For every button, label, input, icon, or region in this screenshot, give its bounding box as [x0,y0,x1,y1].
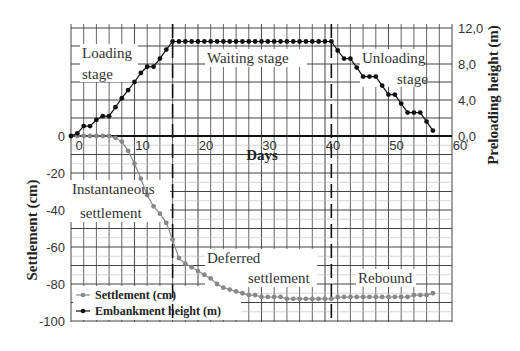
data-point [310,39,315,44]
data-point [215,39,220,44]
data-point [202,272,207,277]
data-point [285,39,290,44]
data-point [138,71,143,76]
data-point [329,39,334,44]
data-point [132,80,137,85]
y-left-tick-label: 0 [58,129,65,144]
data-point [348,295,353,300]
data-point [107,134,112,139]
data-point [380,83,385,88]
data-point [335,48,340,53]
data-point [361,74,366,79]
legend-settlement-marker [81,293,86,298]
data-point [183,39,188,44]
data-point [399,295,404,300]
data-point [323,39,328,44]
data-point [158,56,163,61]
data-point [221,39,226,44]
data-point [367,74,372,79]
data-point [431,128,436,133]
data-point [265,39,270,44]
data-point [431,291,436,296]
data-point [272,39,277,44]
data-point [227,287,232,292]
annotation-loading-2: stage [82,66,113,82]
data-point [158,211,163,216]
legend-settlement-label: Settlement (cm) [95,288,176,302]
data-point [94,117,99,122]
data-point [342,295,347,300]
data-point [221,285,226,290]
legend-embankment-label: Embankment height (m) [95,304,221,318]
data-point [278,295,283,300]
y-left-tick-label: -100 [39,314,65,329]
annotation-instant-1: Instantaneous [72,181,155,197]
y-left-tick-label: -80 [46,277,65,292]
data-point [367,295,372,300]
data-point [88,124,93,129]
data-point [304,39,309,44]
data-point [234,289,239,294]
annotation-waiting: Waiting stage [207,50,289,66]
annotation-deferred-2: settlement [248,270,310,286]
data-point [113,135,118,140]
data-point [170,237,175,242]
data-point [119,96,124,101]
data-point [81,134,86,139]
data-point [126,148,131,153]
data-point [272,295,277,300]
data-point [297,39,302,44]
annotation-loading-1: Loading [82,45,132,61]
data-point [253,39,258,44]
data-point [265,295,270,300]
data-point [196,269,201,274]
legend-embankment-marker [81,309,86,314]
data-point [354,295,359,300]
data-point [246,39,251,44]
data-point [424,293,429,298]
data-point [418,110,423,115]
x-tick-label: 20 [199,138,213,153]
y-right-axis-label: Preloading height (m) [485,25,502,165]
data-point [253,293,258,298]
y-left-tick-label: -20 [46,166,65,181]
data-point [405,110,410,115]
data-point [373,295,378,300]
data-point [113,105,118,110]
data-point [316,39,321,44]
data-point [348,56,353,61]
data-point [196,39,201,44]
data-point [189,265,194,270]
y-right-tick-label: 12,0 [458,21,483,36]
data-point [126,88,131,93]
data-point [227,39,232,44]
data-point [405,295,410,300]
data-point [304,296,309,301]
data-point [392,92,397,97]
data-point [164,221,169,226]
data-point [386,92,391,97]
data-point [323,296,328,301]
data-point [183,261,188,266]
data-point [373,74,378,79]
data-point [69,134,74,139]
data-point [297,296,302,301]
x-tick-label: 10 [135,138,149,153]
data-point [119,139,124,144]
y-right-tick-label: 0,0 [458,129,476,144]
data-point [259,39,264,44]
data-point [329,296,334,301]
data-point [392,295,397,300]
y-left-tick-label: -40 [46,203,65,218]
data-point [164,47,169,52]
x-tick-label: 50 [389,138,403,153]
data-point [278,39,283,44]
annotation-instant-2: settlement [80,205,142,221]
data-point [310,296,315,301]
data-point [75,131,80,136]
data-point [94,134,99,139]
data-point [342,56,347,61]
data-point [412,293,417,298]
data-point [399,101,404,106]
x-tick-label: 0 [75,138,82,153]
